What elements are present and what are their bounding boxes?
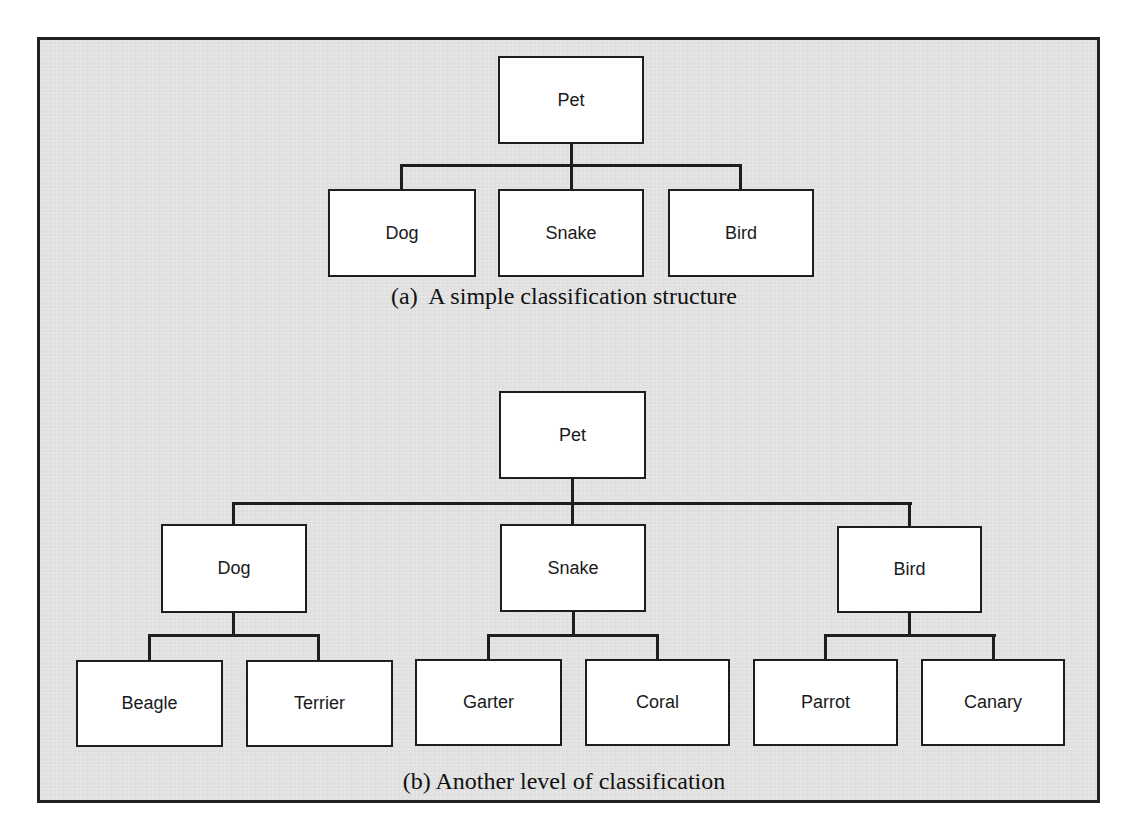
node-b-parrot: Parrot	[753, 659, 898, 746]
caption-b: (b) Another level of classification	[0, 768, 1128, 795]
node-b-snake: Snake	[500, 524, 646, 612]
connector-b-dog	[232, 502, 235, 525]
connector-a-dog	[400, 164, 403, 190]
connector-b-terrier	[317, 634, 320, 661]
connector-a-root-stem	[570, 143, 573, 166]
node-a-bird: Bird	[668, 189, 814, 277]
node-a-dog: Dog	[328, 189, 476, 277]
node-b-bird: Bird	[837, 526, 982, 613]
connector-b-canary	[992, 634, 995, 661]
connector-a-snake	[570, 164, 573, 190]
node-b-root-pet: Pet	[499, 391, 646, 479]
connector-b-bird-stem	[908, 612, 911, 636]
node-a-root-pet: Pet	[498, 56, 644, 144]
node-b-dog: Dog	[161, 524, 307, 613]
connector-b-snake-bar	[487, 634, 659, 637]
node-b-coral: Coral	[585, 659, 730, 746]
node-b-garter: Garter	[415, 659, 562, 746]
connector-b-parrot	[824, 634, 827, 661]
caption-a: (a) A simple classification structure	[0, 283, 1128, 310]
connector-b-dog-bar	[148, 634, 320, 637]
connector-b-dog-stem	[232, 612, 235, 636]
node-b-beagle: Beagle	[76, 660, 223, 747]
connector-b-garter	[487, 634, 490, 661]
connector-b-root-stem	[571, 478, 574, 504]
node-b-terrier: Terrier	[246, 660, 393, 747]
connector-b-beagle	[148, 634, 151, 661]
connector-b-snake-stem	[572, 611, 575, 636]
node-a-snake: Snake	[498, 189, 644, 277]
node-b-canary: Canary	[921, 659, 1065, 746]
connector-b-bird	[908, 502, 911, 527]
connector-b-bird-bar	[824, 634, 996, 637]
connector-b-coral	[656, 634, 659, 661]
connector-b-snake	[571, 502, 574, 525]
connector-a-bird	[739, 164, 742, 190]
